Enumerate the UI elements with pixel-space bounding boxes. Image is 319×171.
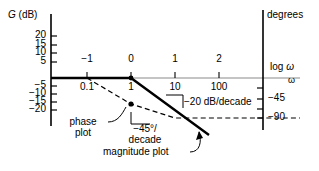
x-tick-label-omega-0p1: 0.1 xyxy=(70,82,104,93)
annotation-minus-20-db-per-decade: −20 dB/decade xyxy=(184,97,252,108)
annotation-phase-plot-line2: plot xyxy=(60,128,106,139)
left-axis-title-symbol: G xyxy=(8,9,16,20)
omega-symbol: ω xyxy=(286,61,294,72)
annotation-minus-45-deg-per-decade-line2: decade xyxy=(118,135,172,146)
left-tick-label-minus-20: −20 xyxy=(8,104,46,115)
annotation-magnitude-plot: magnitude plot xyxy=(103,147,169,158)
annotation-phase-plot-line1: phase xyxy=(60,117,106,128)
left-axis-title: G (dB) xyxy=(8,10,37,21)
right-tick-label-minus-45: −45 xyxy=(268,93,285,104)
phase-plot-leader xyxy=(108,107,126,122)
right-tick-label-minus-90: −90 xyxy=(268,112,285,123)
left-tick-label-5: 5 xyxy=(8,56,46,67)
x-tick-label-log-0: 0 xyxy=(114,54,148,65)
x-tick-label-omega-10: 10 xyxy=(158,82,192,93)
phase-corner-marker xyxy=(128,101,133,106)
x-tick-label-log-2: 2 xyxy=(202,54,236,65)
right-axis-title: degrees xyxy=(267,10,303,21)
x-axis-title-log-omega: log ω xyxy=(270,62,294,73)
bode-plot-figure: G (dB) degrees log ω ω 20 15 10 5 −5 −10… xyxy=(0,0,319,171)
left-axis-ticks xyxy=(51,36,57,110)
x-axis-title-log: log xyxy=(270,61,283,72)
magnitude-corner-marker xyxy=(129,76,134,81)
magnitude-plot-leader-arrowhead xyxy=(196,131,203,140)
x-tick-label-log-minus-1: −1 xyxy=(70,54,104,65)
right-axis-ticks xyxy=(257,88,263,118)
left-axis-title-unit: (dB) xyxy=(16,9,38,20)
x-axis-title-omega: ω xyxy=(288,76,295,85)
annotation-minus-45-deg-per-decade-line1: −45°/ xyxy=(118,124,172,135)
x-tick-label-log-1: 1 xyxy=(158,54,192,65)
x-tick-label-omega-100: 100 xyxy=(202,82,236,93)
x-tick-label-omega-1: 1 xyxy=(114,82,148,93)
